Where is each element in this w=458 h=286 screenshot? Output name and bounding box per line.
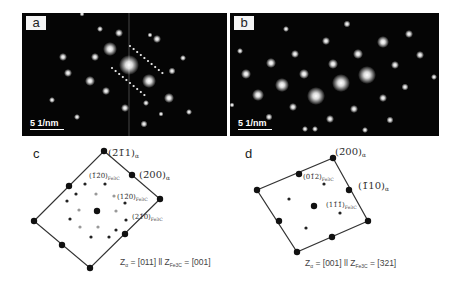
superlattice-spot (139, 53, 142, 56)
diffraction-spot (307, 87, 325, 105)
label-c-211: (2̄1̄1)α (108, 147, 139, 159)
label-c-200: (2̄00)α (139, 169, 170, 181)
indexed-patterns: c (2̄1̄1)α (2̄00)α (1̄2̄0)Fe3C (12̄0)Fe3… (0, 140, 458, 286)
diffraction-spot (64, 69, 72, 77)
diffraction-spot (416, 51, 424, 59)
fe3c-spot (123, 201, 126, 204)
fe3c-spot (322, 182, 325, 185)
label-d-f111: (11̄1̄)Fe3C (326, 201, 357, 210)
diffraction-spot (405, 30, 413, 38)
panel-label-a: a (26, 16, 46, 30)
zone-axis-c: Zα = [011] ll ZFe3C = [001] (120, 257, 211, 268)
diffraction-spot (74, 114, 80, 120)
diffraction-spot (121, 104, 129, 112)
diffraction-spot (362, 127, 368, 133)
diffraction-spot (91, 53, 99, 61)
superlattice-spot (118, 72, 121, 75)
diffraction-spot (237, 48, 243, 54)
fe3c-spot (107, 235, 110, 238)
diffraction-spot (431, 74, 437, 80)
diffraction-spot (402, 84, 409, 91)
diffraction-spot (241, 69, 251, 79)
alpha-spot (365, 218, 371, 224)
superlattice-spot (121, 75, 124, 78)
alpha-spot (129, 172, 135, 178)
fe3c-spot (338, 211, 341, 214)
diffraction-spot (159, 112, 164, 117)
diffraction-spot (328, 59, 338, 69)
diffraction-spot (148, 33, 153, 38)
superlattice-spot (154, 65, 157, 68)
diffraction-spot (326, 115, 334, 123)
alpha-spot (31, 218, 37, 224)
scale-bar-b: 5 1/nm (238, 118, 272, 131)
superlattice-spot (146, 59, 149, 62)
scale-bar-line (238, 129, 272, 131)
fe3c-spot (83, 182, 86, 185)
diffraction-spot (299, 69, 309, 79)
diffraction-spot (266, 58, 276, 68)
diffraction-spot (143, 100, 149, 106)
superlattice-spot (150, 62, 153, 65)
diffraction-spot (119, 55, 139, 75)
diffraction-spot (377, 36, 389, 48)
scale-bar-line (30, 129, 64, 131)
fe3c-spot (124, 218, 127, 221)
superlattice-spot (143, 93, 146, 96)
fe3c-spot (304, 226, 307, 229)
superlattice-spot (143, 56, 146, 59)
superlattice-spot (157, 68, 160, 71)
alpha-spot (157, 196, 163, 202)
diffraction-spot (353, 49, 363, 59)
diffraction-spot (59, 53, 67, 61)
diffraction-image-b: b 5 1/nm (230, 13, 439, 136)
panel-label-c: c (33, 146, 40, 161)
fe3c-spot (287, 197, 290, 200)
alpha-spot (122, 231, 128, 237)
superlattice-spot (114, 69, 117, 72)
diffraction-spot (115, 29, 123, 37)
diffraction-spot (142, 74, 156, 88)
superlattice-spot (110, 66, 113, 69)
alpha-spot (329, 234, 335, 240)
diffraction-spot (97, 26, 103, 32)
scale-bar-text: 5 1/nm (30, 118, 59, 128)
alpha-spot (296, 171, 302, 177)
fe3c-spot-weak (77, 208, 80, 211)
superlattice-spot (139, 90, 142, 93)
diffraction-spot (164, 93, 174, 103)
fe3c-spot-weak (78, 225, 81, 228)
diffraction-spot (153, 35, 161, 43)
diffraction-spot (283, 26, 289, 32)
fe3c-spot (103, 182, 106, 185)
label-d-200: (2̄00)α (335, 146, 366, 158)
diffraction-spot (302, 126, 308, 132)
diffraction-spot (350, 105, 358, 113)
fe3c-spot-weak (114, 209, 117, 212)
diffraction-spot (291, 50, 299, 58)
diffraction-spot (322, 37, 330, 45)
diffraction-spot (80, 13, 85, 17)
transmitted-spot (94, 208, 100, 214)
alpha-spot (66, 183, 72, 189)
diffraction-spot (186, 109, 192, 115)
label-c-f120a: (1̄2̄0)Fe3C (89, 172, 120, 181)
superlattice-spot (132, 47, 135, 50)
scale-bar-text: 5 1/nm (238, 118, 267, 128)
superlattice-spot (136, 50, 139, 53)
diffraction-spot (391, 61, 399, 69)
fe3c-spot (89, 235, 92, 238)
diffraction-spot (379, 94, 387, 102)
diffraction-spot (252, 89, 264, 101)
diffraction-spot (85, 76, 95, 86)
diffraction-image-a: a 5 1/nm (22, 13, 227, 136)
alpha-spot (276, 218, 282, 224)
fe3c-spot-weak (96, 225, 99, 228)
diffraction-spot (169, 68, 176, 75)
label-c-f210: (21̄0)Fe3C (132, 213, 163, 222)
alpha-spot (101, 148, 107, 154)
fe3c-spot-weak (94, 192, 97, 195)
diffraction-spot (230, 103, 235, 108)
diffraction-spot (102, 87, 110, 95)
alpha-spot (254, 187, 260, 193)
